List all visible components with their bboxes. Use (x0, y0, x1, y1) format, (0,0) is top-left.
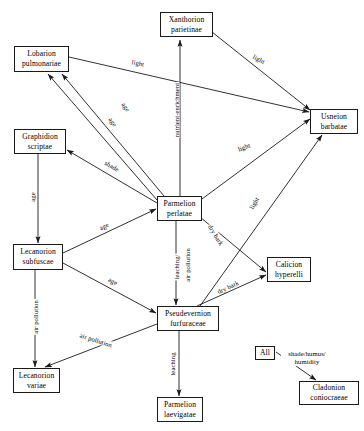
node-graphidion[interactable]: Graphidionscriptae (14, 129, 66, 154)
edge-label-e19: shade/humus/ humidity (281, 350, 333, 366)
node-all[interactable]: All (255, 346, 275, 360)
node-label-line: subfuscae (23, 257, 54, 267)
node-lobarion[interactable]: Lobarionpulmonariae (14, 46, 69, 72)
node-label-line: barbatae (321, 122, 348, 132)
edge-label-e8: age (29, 191, 36, 202)
edge-lecanorion_s-to-pseudevernion (63, 263, 156, 313)
node-label-line: perlatae (167, 209, 192, 219)
node-label-line: Cladonion (313, 383, 346, 393)
node-label-line: Parmelion (163, 199, 195, 209)
diagram-canvas: XanthorionparietinaeLobarionpulmonariaeU… (0, 0, 364, 431)
edge-lobarion-to-usneion (69, 57, 309, 112)
node-label-line: Lobarion (27, 49, 56, 59)
node-label-line: Lecanorion (20, 247, 56, 257)
node-label-line: Graphidion (22, 132, 58, 142)
node-label-line: Pseudevernion (165, 309, 211, 319)
edge-label-e16: air pollution (32, 299, 39, 335)
node-label-line: parietinae (171, 25, 202, 35)
node-label-line: Usneion (321, 112, 347, 122)
node-label-line: hyperelli (275, 270, 303, 280)
edge-lecanorion_s-to-parmelion_p (63, 209, 156, 253)
node-lecanorion_s[interactable]: Lecanorionsubfuscae (13, 244, 63, 270)
node-label-line: Parmelion (164, 400, 196, 410)
node-label-line: coniocraeae (310, 393, 347, 403)
edge-label-e3: nutrient-enrichment (173, 82, 180, 138)
node-label-line: laevigatae (164, 410, 196, 420)
node-pseudevernion[interactable]: Pseudevernionfurfuraceae (157, 306, 219, 331)
node-label-line: furfuraceae (170, 319, 206, 329)
edge-label-e18: leaching (169, 351, 176, 376)
edge-parmelion_p-to-lobarion (62, 74, 164, 196)
edge-xanthorion-to-usneion (212, 32, 310, 110)
node-parmelion_p[interactable]: Parmelionperlatae (157, 196, 202, 221)
node-label-line: scriptae (28, 142, 52, 152)
node-calicion[interactable]: Calicionhyperelli (267, 257, 311, 282)
node-xanthorion[interactable]: Xanthorionparietinae (160, 12, 213, 37)
node-cladonion[interactable]: Cladonionconiocraeae (299, 381, 359, 405)
edge-pseudevernion-to-calicion (197, 275, 266, 306)
edge-label-e13: leaching/ (173, 253, 180, 280)
node-label-line: Xanthorion (169, 15, 205, 25)
edge-parmelion_p-to-usneion (202, 119, 310, 199)
edge-label-e14: air pollution (184, 247, 191, 283)
node-parmelion_l[interactable]: Parmelionlaevigatae (157, 397, 203, 422)
node-label-line: Lecanorion (19, 371, 55, 381)
edge-parmelion_p-to-graphidion (67, 150, 157, 203)
node-label-line: Calicion (276, 260, 303, 270)
node-lecanorion_v[interactable]: Lecanorionvariae (13, 368, 60, 393)
node-label-line: All (260, 348, 270, 358)
node-label-line: variae (27, 381, 46, 391)
node-label-line: pulmonariae (22, 59, 61, 69)
node-usneion[interactable]: Usneionbarbatae (310, 109, 358, 134)
